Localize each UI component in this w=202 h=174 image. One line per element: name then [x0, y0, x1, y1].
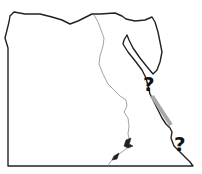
question-marker-north: ?: [143, 74, 155, 94]
country-border: [5, 12, 193, 166]
highlighted-coast-segment: [152, 96, 171, 125]
egypt-map: ? ?: [0, 0, 202, 174]
question-marker-south: ?: [174, 134, 186, 154]
lake-nasser: [112, 138, 133, 160]
map-outline: [0, 0, 202, 174]
